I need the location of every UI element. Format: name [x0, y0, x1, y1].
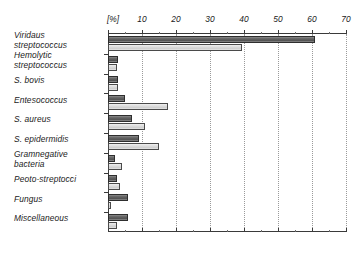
bar-series-2-light [108, 44, 242, 51]
bar-series-1-dark [108, 214, 128, 221]
y-tick [104, 153, 108, 154]
category-label: Gramnegative bacteria [14, 150, 106, 169]
x-tick-bottom-30 [210, 228, 211, 232]
gridline-40 [244, 34, 246, 232]
x-tick-bottom-10 [142, 228, 143, 232]
x-axis-tick-label-30: 30 [205, 14, 214, 24]
x-tick-top-0 [108, 30, 109, 34]
y-tick [104, 74, 108, 75]
x-tick-bottom-60 [312, 228, 313, 232]
category-label: S. aureus [14, 115, 106, 125]
gridline-70 [346, 34, 348, 232]
bar-series-2-light [108, 143, 159, 150]
x-tick-top-minor [125, 32, 126, 34]
x-tick-bottom-minor [125, 230, 126, 232]
bar-series-2-light [108, 84, 118, 91]
bar-series-1-dark [108, 194, 128, 201]
x-axis-tick-label-50: 50 [273, 14, 282, 24]
bar-series-2-light [108, 163, 122, 170]
bar-series-1-dark [108, 175, 117, 182]
gridline-10 [142, 34, 144, 232]
y-tick [104, 93, 108, 94]
category-label: Hemolytic streptococcus [14, 51, 106, 70]
bar-series-2-light [108, 202, 111, 209]
bar-series-1-dark [108, 115, 132, 122]
x-tick-top-minor [227, 32, 228, 34]
x-tick-top-50 [278, 30, 279, 34]
x-tick-bottom-minor [193, 230, 194, 232]
x-tick-top-minor [261, 32, 262, 34]
y-tick [104, 113, 108, 114]
bar-series-2-light [108, 183, 120, 190]
bar-series-1-dark [108, 56, 118, 63]
bar-series-1-dark [108, 95, 125, 102]
x-tick-bottom-20 [176, 228, 177, 232]
x-axis-tick-label-60: 60 [307, 14, 316, 24]
x-tick-top-30 [210, 30, 211, 34]
x-tick-top-10 [142, 30, 143, 34]
x-tick-bottom-minor [329, 230, 330, 232]
category-label: Peoto-streptocci [14, 175, 106, 185]
x-axis-unit-label: [%] [107, 14, 119, 24]
x-axis-tick-label-10: 10 [137, 14, 146, 24]
category-label: S. bovis [14, 76, 106, 86]
bar-series-1-dark [108, 36, 315, 43]
y-tick [104, 133, 108, 134]
x-tick-bottom-minor [227, 230, 228, 232]
category-label: Viridaus streptococcus [14, 31, 106, 50]
bar-series-2-light [108, 103, 168, 110]
bar-series-1-dark [108, 155, 115, 162]
x-tick-bottom-50 [278, 228, 279, 232]
gridline-50 [278, 34, 280, 232]
x-tick-top-minor [193, 32, 194, 34]
x-tick-bottom-minor [261, 230, 262, 232]
bar-series-2-light [108, 222, 117, 229]
x-tick-top-minor [159, 32, 160, 34]
bar-series-2-light [108, 64, 117, 71]
bar-series-2-light [108, 123, 145, 130]
category-label-column: Viridaus streptococcusHemolytic streptoc… [14, 34, 106, 232]
bar-series-1-dark [108, 135, 139, 142]
x-tick-top-20 [176, 30, 177, 34]
x-axis-tick-label-70: 70 [341, 14, 350, 24]
y-tick [104, 212, 108, 213]
bar-chart: Viridaus streptococcusHemolytic streptoc… [0, 0, 361, 258]
x-tick-top-70 [346, 30, 347, 34]
bar-series-1-dark [108, 76, 118, 83]
plot-area [108, 34, 346, 232]
category-label: Fungus [14, 195, 106, 205]
gridline-30 [210, 34, 212, 232]
category-label: Entesococcus [14, 96, 106, 106]
y-tick [104, 54, 108, 55]
x-axis-tick-labels: [%]10203040506070 [108, 14, 358, 28]
x-tick-top-minor [329, 32, 330, 34]
y-tick [104, 173, 108, 174]
gridline-60 [312, 34, 314, 232]
x-tick-bottom-70 [346, 228, 347, 232]
x-tick-top-60 [312, 30, 313, 34]
category-label: Miscellaneous [14, 214, 106, 224]
y-tick [104, 192, 108, 193]
x-tick-top-40 [244, 30, 245, 34]
x-tick-top-minor [295, 32, 296, 34]
x-tick-bottom-minor [159, 230, 160, 232]
x-axis-tick-label-40: 40 [239, 14, 248, 24]
x-axis-tick-label-20: 20 [171, 14, 180, 24]
category-label: S. epidermidis [14, 135, 106, 145]
x-tick-bottom-minor [295, 230, 296, 232]
gridline-20 [176, 34, 178, 232]
x-tick-bottom-40 [244, 228, 245, 232]
